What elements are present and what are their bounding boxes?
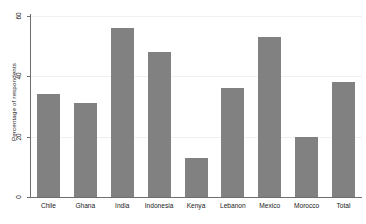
gridline: [31, 76, 362, 77]
x-axis-label-mexico: Mexico: [251, 201, 288, 210]
y-axis-tick-label: 60: [15, 9, 23, 23]
x-axis-label-india: India: [104, 201, 141, 210]
bar: [332, 82, 355, 197]
y-axis-title: Percentage of respondents: [7, 7, 21, 197]
x-axis-line: [30, 197, 362, 198]
x-axis-label-lebanon: Lebanon: [214, 201, 251, 210]
bar: [111, 28, 134, 197]
plot-area: 0204060 ChileGhanaIndiaIndonesiaKenyaLeb…: [30, 14, 362, 198]
gridline: [31, 16, 362, 17]
y-axis-line: [30, 14, 31, 198]
y-axis-tick-label: 0: [15, 190, 23, 204]
y-axis-tick-mark: [27, 76, 30, 77]
y-axis-tick-label: 40: [15, 69, 23, 83]
bar: [37, 94, 60, 197]
x-axis-label-morocco: Morocco: [288, 201, 325, 210]
bar: [74, 103, 97, 197]
y-axis-tick-label: 20: [15, 130, 23, 144]
x-axis-label-kenya: Kenya: [178, 201, 215, 210]
bar: [295, 137, 318, 197]
y-axis-tick-mark: [27, 16, 30, 17]
bar-chart: Percentage of respondents 0204060 ChileG…: [0, 0, 366, 224]
y-axis-tick-mark: [27, 137, 30, 138]
x-axis-label-indonesia: Indonesia: [141, 201, 178, 210]
x-axis-label-chile: Chile: [30, 201, 67, 210]
bar: [258, 37, 281, 197]
y-axis-tick-mark: [27, 197, 30, 198]
bar: [148, 52, 171, 197]
bar: [221, 88, 244, 197]
x-axis-label-ghana: Ghana: [67, 201, 104, 210]
bar: [185, 158, 208, 197]
x-axis-label-total: Total: [325, 201, 362, 210]
